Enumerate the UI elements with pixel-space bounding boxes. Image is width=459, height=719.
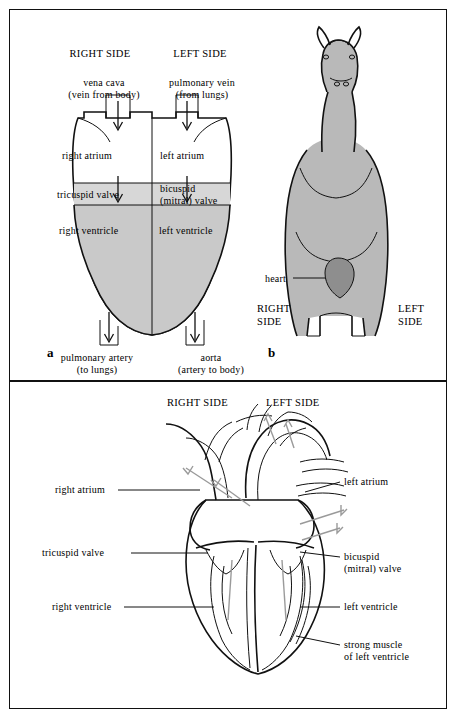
label-strong-muscle-line1: strong muscle: [344, 639, 402, 650]
label-tricuspid-valve-c: tricuspid valve: [42, 547, 104, 558]
label-left-atrium-c: left atrium: [344, 476, 388, 487]
figure-page: RIGHT SIDE LEFT SIDE vena cava (vein fro…: [0, 0, 459, 719]
panel-c-left-side-header: LEFT SIDE: [266, 397, 320, 408]
label-right-ventricle-c: right ventricle: [52, 601, 111, 612]
panel-c-right-side-header: RIGHT SIDE: [167, 397, 228, 408]
label-bicuspid-line1-c: bicuspid: [344, 551, 380, 562]
label-right-atrium-c: right atrium: [55, 484, 105, 495]
label-bicuspid-line2-c: (mitral) valve: [344, 563, 402, 574]
label-left-ventricle-c: left ventricle: [344, 601, 398, 612]
label-strong-muscle-line2: of left ventricle: [344, 651, 409, 662]
